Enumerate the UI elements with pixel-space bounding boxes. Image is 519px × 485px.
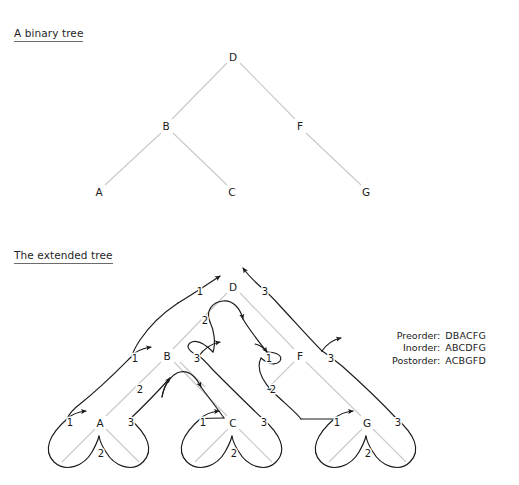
ext-node-G: G [363, 417, 371, 429]
tour-C-mid [232, 419, 282, 467]
edge-D-F [240, 63, 295, 119]
preorder-label: Preorder: [392, 330, 445, 342]
edge-B-C [173, 133, 227, 185]
figure-binary-tree-traversal: A binary tree The extended tree D B F A … [0, 0, 519, 485]
ext-stub-A-right [106, 429, 139, 462]
visit-numbers: 123 123 123 123 123 123 1 2 3 1 2 3 1 2 … [67, 286, 401, 459]
edge-F-G [306, 133, 361, 185]
tour-C-left-null [181, 419, 232, 467]
ext-edge-B-C [174, 362, 227, 416]
tour-arrive-F3 [322, 338, 341, 351]
visit-C-3: 3 [261, 417, 267, 428]
ext-edge-D-F [240, 293, 294, 349]
inorder-value: ABCDFG [445, 342, 486, 354]
ext-edge-F-G [306, 362, 361, 416]
euler-tour-curve [48, 268, 415, 467]
visit-C-2: 2 [231, 448, 237, 459]
tree-node-C: C [228, 186, 235, 198]
preorder-value: DBACFG [445, 330, 486, 342]
tour-B-to-C [201, 387, 224, 418]
diagram-canvas: D B F A C G [0, 0, 519, 485]
visit-B-1: 1 [132, 353, 138, 364]
tour-C-to-B [199, 356, 263, 419]
tour-A-left-null [48, 419, 99, 467]
visit-D-1: 1 [197, 286, 203, 297]
traversal-row: Postorder: ACBGFD [392, 355, 486, 367]
ext-stub-C-left [195, 429, 228, 462]
binary-tree-nodes: D B F A C G [95, 51, 370, 198]
tree-node-B: B [162, 120, 169, 132]
visit-G-3: 3 [395, 417, 401, 428]
ext-stub-G-right [373, 429, 406, 462]
tree-node-A: A [95, 186, 103, 198]
tour-D-to-B [132, 303, 178, 356]
traversal-legend: Preorder: DBACFG Inorder: ABCDFG Postord… [392, 330, 486, 367]
tour-B-to-D [210, 322, 214, 352]
visit-B-2: 2 [137, 384, 143, 395]
visit-A-1: 1 [67, 417, 73, 428]
ext-edge-B-A [106, 362, 161, 416]
visit-F-1: 1 [266, 353, 272, 364]
postorder-value: ACBGFD [445, 355, 486, 367]
visit-A-2: 2 [98, 448, 104, 459]
ext-stub-A-left [62, 429, 95, 462]
ext-node-D: D [229, 281, 237, 293]
tree-node-D: D [229, 51, 237, 63]
visit-D-3: 3 [262, 286, 268, 297]
visit-D-2: 2 [202, 315, 208, 326]
tour-D-arch [208, 301, 243, 322]
visit-G-1: 1 [334, 417, 340, 428]
visit-A-3: 3 [128, 417, 134, 428]
tour-F-to-D [262, 288, 322, 351]
visit-F-2: 2 [270, 384, 276, 395]
visit-B-3: 3 [194, 353, 200, 364]
tour-D-to-F [243, 319, 267, 352]
ext-stub-G-left [329, 429, 362, 462]
binary-tree-edges [105, 63, 361, 185]
visit-C-1: 1 [200, 417, 206, 428]
traversal-row: Inorder: ABCDFG [392, 342, 486, 354]
ext-stub-B-right [180, 362, 205, 387]
visit-F-3: 3 [328, 353, 334, 364]
edge-B-A [105, 133, 161, 185]
tree-node-F: F [297, 120, 303, 132]
visit-G-2: 2 [365, 448, 371, 459]
ext-node-B: B [163, 350, 170, 362]
inorder-label: Inorder: [392, 342, 445, 354]
ext-node-C: C [229, 417, 236, 429]
tour-B-to-A [67, 356, 132, 419]
tour-G-left-null [315, 419, 366, 467]
ext-stub-C-right [239, 429, 272, 462]
tour-G-mid [366, 419, 416, 467]
tour-exit-root [243, 268, 262, 288]
ext-node-A: A [96, 417, 104, 429]
tour-F-down-G [272, 391, 301, 419]
tour-A-mid [99, 419, 149, 467]
tree-node-G: G [362, 186, 370, 198]
edge-D-B [172, 63, 227, 119]
postorder-label: Postorder: [392, 355, 445, 367]
traversal-row: Preorder: DBACFG [392, 330, 486, 342]
ext-node-F: F [297, 350, 303, 362]
